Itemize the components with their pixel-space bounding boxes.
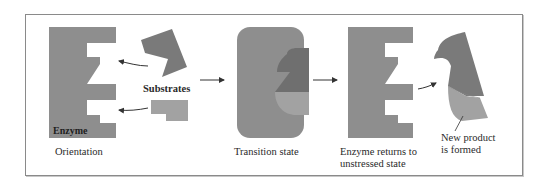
enzyme-shape [49, 27, 116, 138]
caption-transition-state: Transition state [234, 146, 299, 158]
product-label-line1: New product [441, 132, 496, 144]
substrates-label: Substrates [143, 83, 190, 95]
arrow-substrate-a-icon [119, 61, 148, 66]
caption-orientation: Orientation [55, 146, 103, 158]
substrate-b-shape [151, 100, 188, 121]
enzyme-label: Enzyme [53, 125, 87, 137]
substrate-a-shape [141, 29, 187, 77]
product-label-line2: is formed [441, 144, 481, 156]
product-top-shape [434, 32, 484, 96]
arrow-product-icon [418, 83, 436, 89]
caption-enzyme-returns-line2: unstressed state [340, 158, 406, 170]
arrow-substrate-b-icon [119, 108, 148, 110]
enzyme-released-shape [348, 27, 413, 138]
caption-enzyme-returns-line1: Enzyme returns to [340, 146, 417, 158]
